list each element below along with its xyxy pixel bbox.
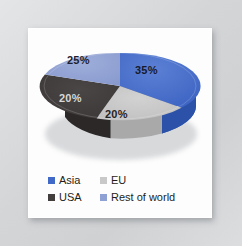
legend-label-asia: Asia <box>59 175 80 186</box>
legend-item-eu[interactable]: EU <box>100 175 126 186</box>
legend-item-rest-of-world[interactable]: Rest of world <box>100 192 175 203</box>
pie-chart: 35% 25% 20% 20% <box>28 34 212 166</box>
legend-label-rest-of-world: Rest of world <box>111 192 175 203</box>
legend-swatch-eu <box>100 177 107 184</box>
chart-legend: Asia EU USA Rest of world <box>48 172 198 206</box>
legend-item-asia[interactable]: Asia <box>48 175 100 186</box>
image-frame: 35% 25% 20% 20% Asia EU USA <box>0 0 242 246</box>
legend-swatch-usa <box>48 194 55 201</box>
pie-svg <box>39 34 201 164</box>
legend-swatch-asia <box>48 177 55 184</box>
legend-row: Asia EU <box>48 172 198 188</box>
legend-row: USA Rest of world <box>48 189 198 205</box>
chart-card: 35% 25% 20% 20% Asia EU USA <box>28 28 212 218</box>
pie-graphic: 35% 25% 20% 20% <box>39 34 201 164</box>
legend-label-usa: USA <box>59 192 82 203</box>
legend-label-eu: EU <box>111 175 126 186</box>
legend-swatch-rest-of-world <box>100 194 107 201</box>
legend-item-usa[interactable]: USA <box>48 192 100 203</box>
